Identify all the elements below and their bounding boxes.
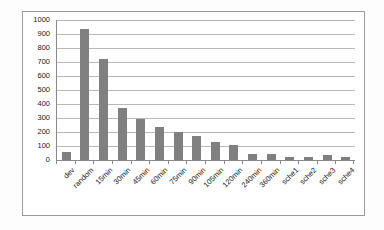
x-axis-label-slot: 60min <box>149 165 168 215</box>
x-axis-category-label-text: 60min <box>150 166 170 186</box>
x-axis-category-label-text: 240min <box>240 166 263 189</box>
bar[interactable] <box>118 108 127 160</box>
x-axis-category-label-text: sche3 <box>318 166 337 185</box>
x-axis-label-slot: 30min <box>112 165 131 215</box>
bar[interactable] <box>174 132 183 160</box>
x-axis-category-label-text: 45min <box>131 166 151 186</box>
x-axis-label-slot: 90min <box>186 165 205 215</box>
bar-slot <box>262 20 281 160</box>
x-axis-label-slot: sche4 <box>335 165 354 215</box>
y-axis-tick-label: 300 <box>37 114 50 122</box>
y-axis-tick-label: 100 <box>37 142 50 150</box>
bar-slot <box>336 20 355 160</box>
x-axis-tick-mark <box>56 160 57 164</box>
bar-series <box>57 20 355 160</box>
x-axis-label-slot: sche1 <box>280 165 299 215</box>
bar-slot <box>281 20 300 160</box>
bar-slot <box>132 20 151 160</box>
y-axis-tick-label: 500 <box>37 86 50 94</box>
x-axis-label-slot: 45min <box>131 165 150 215</box>
bar-slot <box>318 20 337 160</box>
y-axis-tick-label: 200 <box>37 128 50 136</box>
chart-plot-wrapper: 10009008007006005004003002001000 devrand… <box>23 12 364 215</box>
bar-slot <box>243 20 262 160</box>
x-axis-label-slot: 360min <box>261 165 280 215</box>
bar[interactable] <box>136 119 145 160</box>
x-axis-label-slot: 105min <box>205 165 224 215</box>
y-axis-tick-label: 0 <box>46 156 50 164</box>
bar-slot <box>225 20 244 160</box>
x-axis-category-label-text: 30min <box>113 166 133 186</box>
x-axis-labels: devrandom15min30min45min60min75min90min1… <box>56 165 354 215</box>
bar-slot <box>206 20 225 160</box>
y-axis-labels: 10009008007006005004003002001000 <box>23 20 53 160</box>
x-axis-category-label-text: 75min <box>168 166 188 186</box>
chart-frame: 10009008007006005004003002001000 devrand… <box>22 11 365 216</box>
x-axis-category-label-text: 105min <box>203 166 226 189</box>
x-axis-label-slot: sche3 <box>317 165 336 215</box>
bar-slot <box>113 20 132 160</box>
y-axis-tick-label: 800 <box>37 44 50 52</box>
x-axis-label-slot: dev <box>56 165 75 215</box>
bar-slot <box>57 20 76 160</box>
bar-slot <box>169 20 188 160</box>
bar[interactable] <box>99 59 108 160</box>
bar-slot <box>299 20 318 160</box>
y-axis-tick-label: 700 <box>37 58 50 66</box>
y-axis-tick-label: 1000 <box>33 16 50 24</box>
x-axis-label-slot: 15min <box>93 165 112 215</box>
bar-slot <box>76 20 95 160</box>
plot-area <box>56 20 355 161</box>
x-axis-category-label-text: sche1 <box>280 166 299 185</box>
y-axis-tick-label: 900 <box>37 30 50 38</box>
x-axis-label-slot: random <box>75 165 94 215</box>
x-axis-category-label-text: random <box>72 166 95 189</box>
x-axis-label-slot: sche2 <box>298 165 317 215</box>
x-axis-label-slot: 75min <box>168 165 187 215</box>
y-axis-tick-label: 400 <box>37 100 50 108</box>
bar-slot <box>150 20 169 160</box>
bar-slot <box>187 20 206 160</box>
y-axis-tick-label: 600 <box>37 72 50 80</box>
bar[interactable] <box>155 127 164 160</box>
x-axis-category-label-text: 360min <box>259 166 282 189</box>
x-axis-category-label-text: 120min <box>221 166 244 189</box>
bar-slot <box>94 20 113 160</box>
bar[interactable] <box>80 29 89 160</box>
x-axis-category-label-text: 15min <box>94 166 114 186</box>
x-axis-label-slot: 120min <box>224 165 243 215</box>
x-axis-category-label-text: sche2 <box>299 166 318 185</box>
x-axis-category-label-text: sche4 <box>336 166 355 185</box>
x-axis-label-slot: 240min <box>242 165 261 215</box>
